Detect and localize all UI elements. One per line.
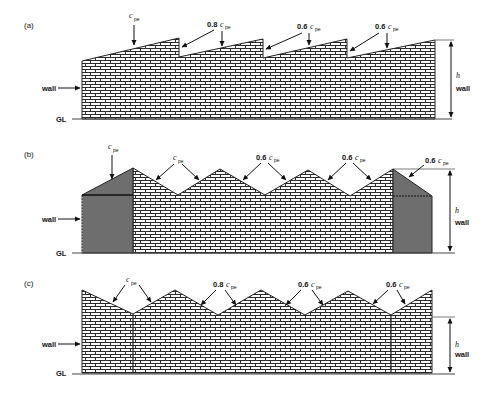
- svg-text:pe: pe: [316, 284, 322, 290]
- h-wall-label-a: wall: [455, 84, 470, 93]
- cpe-annotation-b-3: 0.6 c pe: [243, 153, 286, 180]
- building-a-sawtooth: [82, 38, 435, 119]
- svg-text:pe: pe: [131, 280, 137, 286]
- svg-text:c: c: [310, 22, 314, 31]
- h-label-c: h: [455, 340, 459, 349]
- panel-label-a: (a): [24, 21, 34, 30]
- svg-text:c: c: [129, 11, 133, 20]
- wall-label-c: wall: [41, 340, 56, 349]
- svg-text:pe: pe: [360, 157, 366, 163]
- building-b-middle: [133, 168, 393, 253]
- svg-text:pe: pe: [393, 26, 399, 32]
- svg-text:c: c: [438, 156, 442, 165]
- cpe-annotation-a-4: 0.6 c pe: [350, 22, 399, 51]
- svg-text:pe: pe: [225, 24, 231, 30]
- panel-b: (b) GL wall h wall c pe c pe 0.6: [24, 142, 469, 258]
- building-c-multispan: [82, 290, 432, 373]
- svg-text:c: c: [226, 280, 230, 289]
- svg-text:pe: pe: [178, 158, 184, 164]
- svg-text:0.8: 0.8: [213, 280, 223, 289]
- svg-text:pe: pe: [404, 284, 410, 290]
- svg-text:c: c: [399, 280, 403, 289]
- cpe-annotation-c-3: 0.6 c pe: [286, 280, 323, 305]
- svg-text:0.6: 0.6: [298, 280, 308, 289]
- cpe-annotation-b-4: 0.6 c pe: [328, 153, 371, 180]
- cpe-annotation-b-2: c pe: [156, 153, 199, 180]
- svg-text:0.6: 0.6: [386, 280, 396, 289]
- gl-label-a: GL: [56, 115, 67, 124]
- svg-text:pe: pe: [443, 160, 449, 166]
- svg-text:0.6: 0.6: [297, 22, 307, 31]
- svg-text:0.8: 0.8: [207, 20, 217, 29]
- svg-text:c: c: [126, 275, 130, 284]
- svg-text:c: c: [388, 22, 392, 31]
- panel-label-c: (c): [24, 279, 34, 288]
- cpe-annotation-a-2: 0.8 c pe: [182, 20, 231, 47]
- wall-label-a: wall: [41, 84, 56, 93]
- cpe-annotation-c-2: 0.8 c pe: [201, 280, 237, 305]
- cpe-annotation-a-1: c pe: [129, 11, 140, 45]
- wall-label-b: wall: [41, 215, 56, 224]
- svg-text:0.6: 0.6: [425, 156, 435, 165]
- svg-text:0.6: 0.6: [375, 22, 385, 31]
- panel-label-b: (b): [24, 150, 34, 159]
- h-label-b: h: [455, 206, 459, 215]
- h-wall-label-c: wall: [454, 350, 469, 359]
- cpe-annotation-b-1: c pe: [108, 142, 119, 179]
- shaded-bay-right: [393, 169, 432, 253]
- svg-text:0.6: 0.6: [256, 153, 266, 162]
- cpe-annotation-a-3: 0.6 c pe: [266, 22, 321, 49]
- svg-text:pe: pe: [231, 284, 237, 290]
- svg-text:0.6: 0.6: [342, 153, 352, 162]
- panel-a: (a) GL wall h wall c pe 0.8 c pe 0.6 c p: [24, 11, 470, 124]
- cpe-annotation-c-1: c pe: [113, 275, 151, 302]
- cpe-annotation-c-4: 0.6 c pe: [373, 280, 410, 304]
- panel-c: (c) GL wall h wall c pe 0.8 c pe 0.6 c p…: [24, 275, 469, 378]
- svg-text:pe: pe: [134, 16, 140, 22]
- svg-text:c: c: [355, 153, 359, 162]
- h-wall-label-b: wall: [454, 218, 469, 227]
- svg-text:c: c: [311, 280, 315, 289]
- gl-label-c: GL: [56, 369, 67, 378]
- svg-text:c: c: [108, 142, 112, 151]
- svg-text:c: c: [220, 20, 224, 29]
- svg-text:pe: pe: [315, 26, 321, 32]
- svg-text:c: c: [269, 153, 273, 162]
- svg-text:c: c: [173, 153, 177, 162]
- svg-text:pe: pe: [113, 147, 119, 153]
- cpe-annotation-b-5: 0.6 c pe: [409, 156, 449, 177]
- gl-label-b: GL: [56, 249, 67, 258]
- svg-text:pe: pe: [274, 157, 280, 163]
- shaded-bay-left: [82, 168, 133, 253]
- wind-pressure-diagram: (a) GL wall h wall c pe 0.8 c pe 0.6 c p: [0, 0, 491, 395]
- h-label-a: h: [456, 71, 460, 80]
